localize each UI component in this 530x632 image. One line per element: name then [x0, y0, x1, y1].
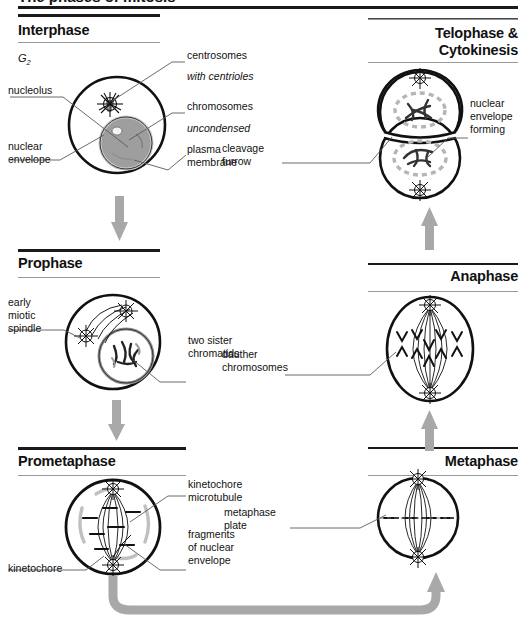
label-fragments-of-nuclear-envelope: fragments of nuclear envelope [188, 528, 235, 568]
arrow-metaphase-to-anaphase [421, 410, 438, 451]
heading-metaphase: Metaphase [318, 453, 518, 470]
metaphase-leaders [290, 515, 386, 528]
label-early-miotic-spindle: early miotic spindle [8, 296, 41, 336]
label-nucleolus: nucleolus [8, 84, 52, 97]
prometaphase-cell [66, 479, 160, 576]
label-kinetochore: kinetochore [8, 562, 62, 575]
heading-anaphase: Anaphase [318, 268, 518, 285]
anaphase-cell [387, 295, 473, 404]
label-nuclear-envelope: nuclear envelope [8, 140, 51, 166]
arrow-prometaphase-to-metaphase [113, 572, 445, 610]
label-metaphase-plate: metaphase plate [224, 506, 276, 532]
heading-telophase: Telophase & Cytokinesis [318, 25, 518, 59]
arrow-interphase-to-prophase [111, 196, 128, 241]
heading-prophase: Prophase [18, 255, 82, 272]
label-dauther-chromosomes: dauther chromosomes [222, 348, 288, 374]
diagram-artwork [0, 0, 530, 632]
g2-label: G2 [18, 52, 31, 64]
label-kinetochore-microtubule: kinetochore microtubule [188, 478, 242, 504]
heading-interphase: Interphase [18, 22, 89, 39]
label-nuclear-envelope-forming: nuclear envelope forming [470, 97, 513, 137]
heading-prometaphase: Prometaphase [18, 453, 116, 470]
label-centrosomes: centrosomes [187, 49, 247, 62]
label-chromosomes: chromosomes [187, 100, 253, 113]
label-cleavage-furrow: cleavage furrow [222, 142, 264, 168]
mitosis-diagram: The phases of mitosis [0, 0, 530, 632]
arrow-prophase-to-prometaphase [108, 400, 125, 441]
telophase-cells [378, 68, 462, 201]
label-with-centrioles: with centrioles [187, 70, 254, 83]
metaphase-cell [378, 469, 458, 568]
label-uncondensed: uncondensed [187, 122, 250, 135]
interphase-stage-note: G2 [18, 52, 31, 67]
interphase-cell [69, 77, 165, 173]
arrow-anaphase-to-telophase [421, 207, 438, 250]
prophase-cell [66, 295, 160, 389]
anaphase-leaders [285, 352, 396, 375]
